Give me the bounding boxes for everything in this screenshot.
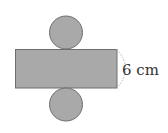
height-label: 6 cm (122, 61, 159, 79)
cylinder-net-diagram: 6 cm (0, 0, 168, 133)
lateral-surface-rectangle (16, 50, 118, 89)
bottom-circle-base (50, 88, 83, 121)
top-circle-base (50, 16, 83, 49)
